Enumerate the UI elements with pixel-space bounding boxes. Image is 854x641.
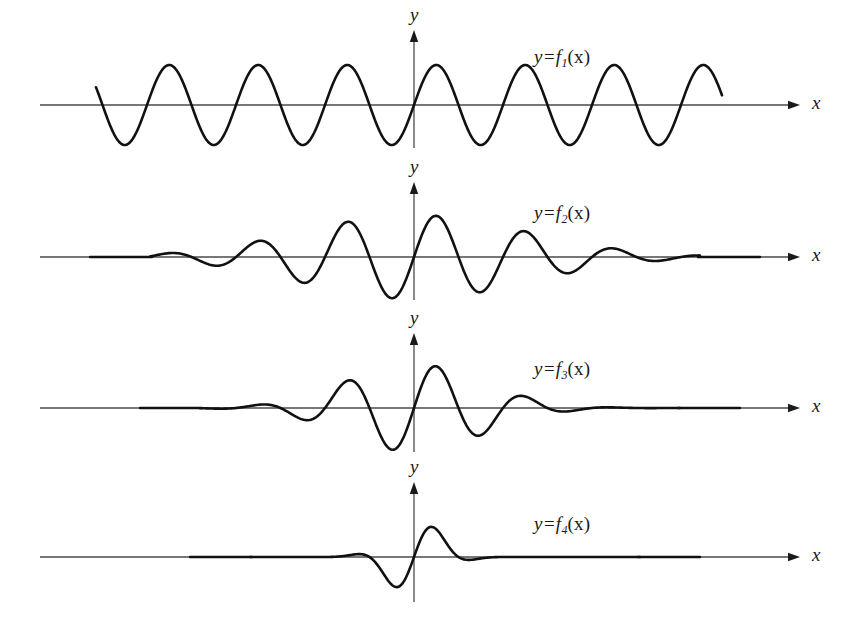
y-axis-arrowhead-3 xyxy=(410,333,418,345)
y-axis-arrowhead-1 xyxy=(410,30,418,42)
plot-panel-1 xyxy=(0,0,854,641)
curve-1 xyxy=(96,65,722,145)
x-axis-arrowhead-2 xyxy=(788,253,800,261)
x-axis-arrowhead-3 xyxy=(788,404,800,412)
plot-panel-3 xyxy=(0,0,854,641)
wave-packet-figure: yxy=f1(x)yxy=f2(x)yxy=f3(x)yxy=f4(x) xyxy=(0,0,854,641)
curve-annotation-2: y=f2(x) xyxy=(534,202,591,227)
curve-annotation-suffix-4: (x) xyxy=(567,513,590,534)
plot-panel-2 xyxy=(0,0,854,641)
curve-annotation-prefix-1: y=f xyxy=(534,46,561,67)
curve-annotation-prefix-3: y=f xyxy=(534,358,561,379)
y-axis-label-2: y xyxy=(410,156,418,178)
y-axis-arrowhead-4 xyxy=(410,482,418,494)
y-axis-label-4: y xyxy=(410,456,418,478)
curve-2 xyxy=(150,216,700,298)
curve-annotation-prefix-2: y=f xyxy=(534,202,561,223)
plot-panel-4 xyxy=(0,0,854,641)
curve-annotation-4: y=f4(x) xyxy=(534,513,591,538)
x-axis-label-4: x xyxy=(812,544,820,566)
curve-annotation-suffix-3: (x) xyxy=(567,358,590,379)
x-axis-label-3: x xyxy=(812,395,820,417)
curve-annotation-suffix-2: (x) xyxy=(567,202,590,223)
curve-annotation-3: y=f3(x) xyxy=(534,358,591,383)
x-axis-arrowhead-4 xyxy=(788,553,800,561)
x-axis-label-1: x xyxy=(812,92,820,114)
y-axis-label-1: y xyxy=(410,4,418,26)
curve-annotation-1: y=f1(x) xyxy=(534,46,591,71)
y-axis-arrowhead-2 xyxy=(410,182,418,194)
curve-3 xyxy=(200,366,680,450)
x-axis-arrowhead-1 xyxy=(788,101,800,109)
curve-annotation-prefix-4: y=f xyxy=(534,513,561,534)
y-axis-label-3: y xyxy=(410,307,418,329)
curve-annotation-suffix-1: (x) xyxy=(567,46,590,67)
x-axis-label-2: x xyxy=(812,244,820,266)
